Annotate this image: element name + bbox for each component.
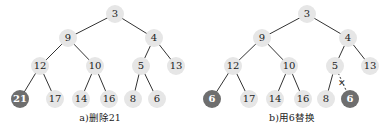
tree-node: 16 [100, 90, 118, 108]
figure-caption: a)删除21 [79, 110, 120, 124]
tree-node: 16 [294, 90, 312, 108]
tree-node: 6 [203, 90, 221, 108]
tree-node: 8 [124, 90, 142, 108]
tree-node: 9 [59, 29, 77, 47]
tree-node: 9 [253, 29, 271, 47]
tree-node: 5 [326, 57, 344, 75]
tree-node: 17 [46, 90, 64, 108]
tree-node: 5 [132, 57, 150, 75]
tree-node: 10 [86, 57, 104, 75]
tree-node: 13 [361, 57, 379, 75]
tree-node: 6 [148, 90, 166, 108]
tree-node: 3 [298, 5, 316, 23]
heap-deletion-diagram: 39412105132117141686a)删除2139412105136171… [0, 0, 384, 129]
tree-node: 14 [266, 90, 284, 108]
figure-caption: b)用6替换 [269, 110, 315, 124]
tree-node: 12 [31, 57, 49, 75]
tree-node: 14 [72, 90, 90, 108]
tree-node: 6 [341, 90, 359, 108]
tree-node: 10 [280, 57, 298, 75]
tree-node: 12 [224, 57, 242, 75]
tree-node: 17 [240, 90, 258, 108]
cut-mark-icon: ✕ [338, 78, 346, 88]
tree-node: 21 [11, 90, 29, 108]
tree-node: 3 [106, 5, 124, 23]
tree-node: 13 [167, 57, 185, 75]
tree-node: 8 [317, 90, 335, 108]
tree-node: 4 [339, 29, 357, 47]
tree-node: 4 [145, 29, 163, 47]
